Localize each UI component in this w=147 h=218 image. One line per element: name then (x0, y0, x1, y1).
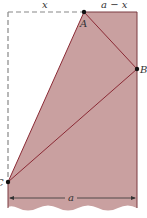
label-a-dimension: a (68, 192, 74, 203)
folded-paper-diagram: x a − x A B C a (0, 0, 147, 218)
label-a-point: A (79, 18, 87, 29)
label-b-point: B (139, 64, 147, 75)
point-c (6, 180, 10, 184)
label-c-point: C (0, 177, 4, 188)
paper-shaded-region (8, 12, 137, 211)
label-x: x (42, 0, 48, 10)
point-a (82, 10, 86, 14)
label-a-minus-x: a − x (101, 0, 128, 10)
point-b (135, 67, 139, 71)
